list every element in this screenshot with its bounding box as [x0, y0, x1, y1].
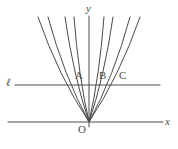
y-axis-label: y: [86, 3, 91, 14]
parabola-figure: y x ℓ O A B C: [0, 0, 178, 149]
origin-label: O: [78, 124, 86, 135]
figure-canvas: [0, 0, 178, 149]
point-label-b: B: [99, 70, 106, 81]
point-label-a: A: [75, 70, 83, 81]
point-label-c: C: [119, 70, 126, 81]
line-ell-label: ℓ: [6, 77, 11, 88]
x-axis-label: x: [165, 116, 170, 127]
